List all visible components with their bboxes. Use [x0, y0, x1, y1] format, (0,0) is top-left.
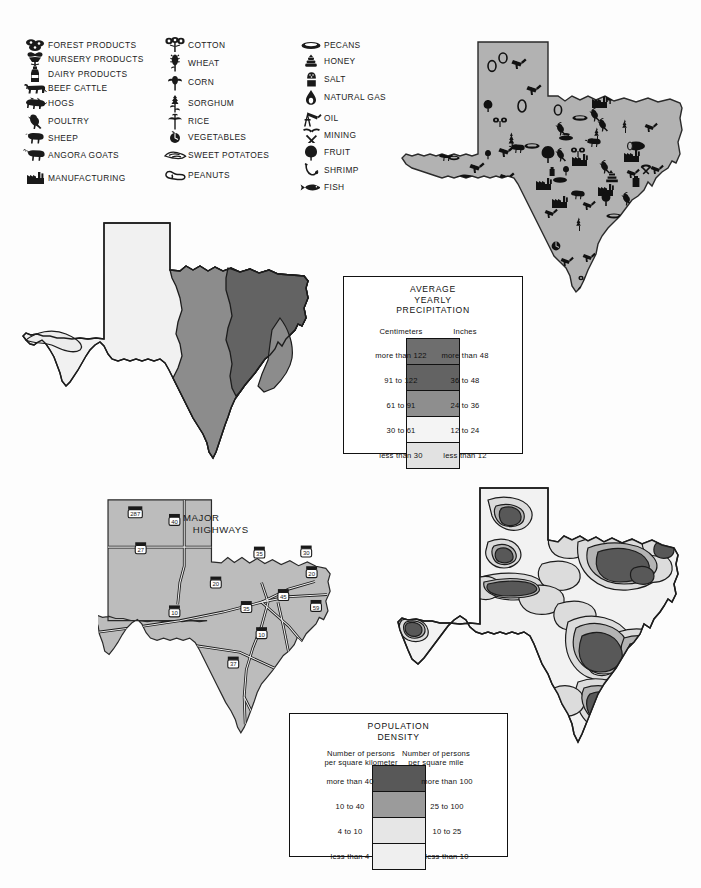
poster-page: FOREST PRODUCTS NURSERY PRODUCTS — [0, 0, 701, 888]
key-item-label: RICE — [188, 116, 209, 126]
texas-precipitation-map — [12, 218, 332, 463]
key-item-shrimp: SHRIMP — [298, 163, 359, 177]
key-item-nursery-products: NURSERY PRODUCTS — [22, 52, 144, 66]
key-item-label: COTTON — [188, 40, 225, 50]
highway-shield-label: 35 — [256, 551, 263, 557]
pop-km-3: less than 4 — [295, 852, 405, 861]
manufacturing-icon — [22, 170, 48, 187]
key-item-label: PECANS — [324, 40, 361, 50]
key-item-sweet-potatoes: SWEET POTATOES — [162, 148, 269, 162]
sweet-potatoes-icon — [162, 147, 188, 164]
key-item-fish: FISH — [298, 180, 344, 194]
highways-map-title: MAJOR HIGHWAYS — [183, 512, 249, 536]
precip-in-3: 12 to 24 — [410, 426, 520, 435]
sorghum-icon — [162, 95, 188, 112]
highway-shield-label: 20 — [213, 581, 220, 587]
pop-km-1: 10 to 40 — [295, 802, 405, 811]
highway-shield-label: 59 — [313, 605, 320, 611]
product-symbol-key: FOREST PRODUCTS NURSERY PRODUCTS — [0, 0, 420, 215]
natural-gas-icon — [298, 89, 324, 106]
key-item-fruit: FRUIT — [298, 145, 350, 159]
key-item-label: SWEET POTATOES — [188, 150, 269, 160]
highway-shield-10-10: 10 — [169, 605, 180, 616]
wheat-icon — [162, 55, 188, 72]
oil-icon — [298, 110, 324, 127]
key-item-label: ANGORA GOATS — [48, 150, 119, 160]
highway-shield-20-6: 20 — [306, 566, 317, 577]
peanuts-icon — [162, 167, 188, 184]
key-item-label: HONEY — [324, 56, 356, 66]
key-item-rice: RICE — [162, 114, 209, 128]
highway-shield-35-8: 35 — [241, 601, 252, 612]
key-item-label: WHEAT — [188, 58, 219, 68]
key-item-mining: MINING — [298, 128, 356, 142]
precip-in-0: more than 48 — [410, 351, 520, 360]
key-item-label: FOREST PRODUCTS — [48, 40, 136, 50]
highway-shield-10-11: 10 — [256, 627, 267, 638]
highway-shield-label: 30 — [303, 550, 310, 556]
key-item-hogs: HOGS — [22, 96, 74, 110]
highway-shield-45-7: 45 — [278, 589, 289, 600]
key-item-vegetables: VEGETABLES — [162, 130, 246, 144]
pop-mi-3: less than 10 — [392, 852, 502, 861]
sheep-icon — [22, 130, 48, 147]
texas-products-map — [400, 30, 690, 310]
highway-shield-label: 27 — [137, 547, 144, 553]
highway-shield-label: 10 — [171, 610, 178, 616]
key-item-poultry: POULTRY — [22, 114, 89, 128]
fruit-icon — [298, 144, 324, 161]
angora-goats-icon — [22, 147, 48, 164]
highway-shield-label: 35 — [243, 606, 250, 612]
key-item-natural-gas: NATURAL GAS — [298, 90, 386, 104]
population-density-legend: POPULATION DENSITY Number of persons per… — [289, 713, 508, 857]
key-item-label: POULTRY — [48, 116, 89, 126]
key-item-pecans: PECANS — [298, 38, 361, 52]
key-item-beef-cattle: BEEF CATTLE — [22, 81, 108, 95]
pop-mi-1: 25 to 100 — [392, 802, 502, 811]
key-item-label: FRUIT — [324, 147, 350, 157]
pop-km-0: more than 40 — [295, 777, 405, 786]
key-item-label: NURSERY PRODUCTS — [48, 54, 144, 64]
highway-shield-label: 20 — [308, 571, 315, 577]
highway-shield-label: 45 — [280, 594, 287, 600]
key-item-manufacturing: MANUFACTURING — [22, 171, 126, 185]
key-item-label: MINING — [324, 130, 356, 140]
key-item-label: DAIRY PRODUCTS — [48, 69, 128, 79]
key-item-label: FISH — [324, 182, 344, 192]
key-item-salt: SALT — [298, 72, 346, 86]
precip-in-2: 24 to 36 — [410, 401, 520, 410]
shrimp-icon — [298, 162, 324, 179]
key-item-corn: CORN — [162, 75, 214, 89]
highway-shield-label: 40 — [171, 519, 178, 525]
texas-major-highways-map: 287402720353020453559101037 MAJOR HIGHWA… — [98, 490, 338, 735]
highway-shield-label: 287 — [130, 511, 141, 517]
highway-shield-label: 37 — [230, 661, 237, 667]
rice-icon — [162, 113, 188, 130]
hogs-icon — [22, 95, 48, 112]
poultry-icon — [22, 113, 48, 130]
precip-in-1: 36 to 48 — [410, 376, 520, 385]
key-item-label: SHEEP — [48, 133, 78, 143]
fish-icon — [298, 179, 324, 196]
highway-shield-59-9: 59 — [311, 600, 322, 611]
key-item-label: NATURAL GAS — [324, 92, 386, 102]
highway-shield-37-12: 37 — [228, 657, 239, 668]
key-item-label: CORN — [188, 77, 214, 87]
key-item-honey: HONEY — [298, 54, 356, 68]
pecans-icon — [298, 37, 324, 54]
mining-icon — [298, 127, 324, 144]
population-legend-title: POPULATION DENSITY — [290, 714, 507, 742]
key-item-label: OIL — [324, 113, 339, 123]
key-item-label: MANUFACTURING — [48, 173, 126, 183]
highway-shield-20-3: 20 — [210, 577, 221, 588]
precip-in-4: less than 12 — [410, 451, 520, 460]
pop-mi-0: more than 100 — [392, 777, 502, 786]
precipitation-legend-title: AVERAGE YEARLY PRECIPITATION — [344, 277, 522, 316]
vegetables-icon — [162, 129, 188, 146]
key-item-label: SALT — [324, 74, 346, 84]
key-item-sorghum: SORGHUM — [162, 96, 234, 110]
precip-right-header: Inches — [415, 327, 515, 336]
honey-icon — [298, 53, 324, 70]
highway-shield-287-0: 287 — [128, 506, 142, 517]
key-item-oil: OIL — [298, 111, 339, 125]
